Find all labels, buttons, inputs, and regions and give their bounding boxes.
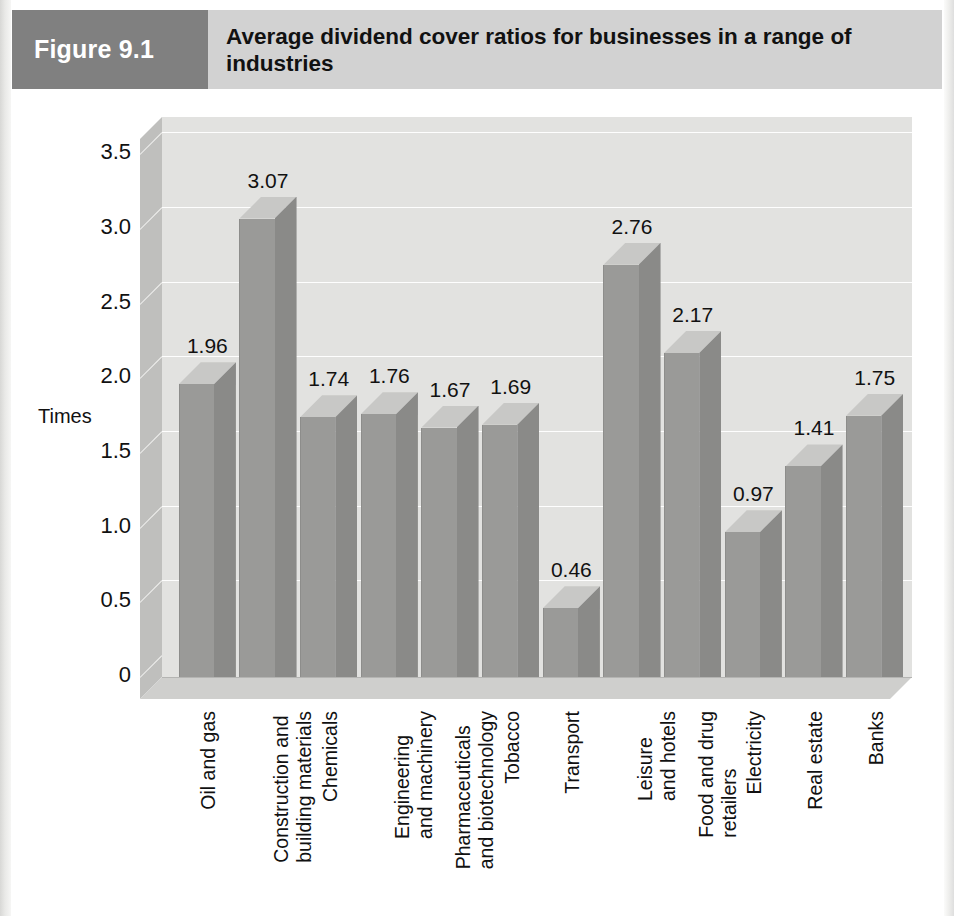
bar-4	[421, 406, 478, 677]
bar-front-face	[725, 532, 760, 677]
bar-front-face	[543, 608, 578, 677]
category-label-9: Electricity	[743, 711, 766, 794]
y-axis-tick-label: 1.5	[100, 438, 131, 464]
y-axis-tick-label: 2.0	[100, 363, 131, 389]
bar-side-face	[214, 362, 236, 677]
category-label-line: building materials	[293, 711, 316, 863]
y-axis-tick-label: 0.5	[100, 587, 131, 613]
bar-11	[846, 394, 903, 677]
bar-value-label: 1.41	[773, 416, 854, 440]
y-axis-label: Times	[38, 405, 92, 428]
bar-front-face	[179, 384, 214, 677]
bar-2	[300, 395, 357, 677]
category-label-6: Transport	[561, 711, 584, 794]
category-label-line: Transport	[561, 711, 584, 794]
y-axis-tick-label: 0	[119, 662, 131, 688]
bar-6	[543, 586, 600, 677]
bar-side-face	[881, 394, 903, 677]
category-label-line: Banks	[865, 711, 888, 765]
category-label-line: Leisure	[634, 711, 657, 801]
bar-side-face	[335, 395, 357, 677]
category-label-3: Engineeringand machinery	[391, 711, 437, 839]
bar-value-label: 3.07	[227, 169, 308, 193]
category-label-10: Real estate	[804, 711, 827, 810]
bar-front-face	[603, 265, 638, 677]
bar-front-face	[300, 417, 335, 677]
bar-front-face	[421, 428, 456, 677]
bar-1	[239, 197, 296, 677]
category-label-line: and machinery	[414, 711, 437, 839]
bar-side-face	[275, 197, 297, 677]
bar-value-label: 2.76	[591, 215, 672, 239]
category-label-line: Electricity	[743, 711, 766, 794]
category-label-line: Oil and gas	[197, 711, 220, 810]
category-label-line: retailers	[718, 711, 741, 838]
category-label-2: Chemicals	[319, 711, 342, 802]
y-axis-tick-label: 2.5	[100, 289, 131, 315]
bar-value-label: 0.46	[531, 558, 612, 582]
y-axis-tick-label: 3.0	[100, 214, 131, 240]
bar-5	[482, 403, 539, 677]
bar-value-label: 1.75	[834, 366, 915, 390]
bar-side-face	[517, 403, 539, 677]
figure-title: Average dividend cover ratios for busine…	[226, 10, 942, 89]
bar-value-label: 0.97	[713, 482, 794, 506]
category-label-line: Chemicals	[319, 711, 342, 802]
category-label-0: Oil and gas	[197, 711, 220, 810]
bar-9	[725, 510, 782, 677]
bar-front-face	[239, 219, 274, 677]
category-label-5: Tobacco	[501, 711, 524, 784]
y-axis-tick-label: 1.0	[100, 513, 131, 539]
bar-value-label: 1.69	[470, 375, 551, 399]
category-label-7: Leisureand hotels	[634, 711, 680, 801]
category-label-line: Construction and	[270, 711, 293, 863]
figure-page: Figure 9.1 Average dividend cover ratios…	[0, 0, 954, 916]
bar-front-face	[482, 425, 517, 677]
y-axis-tick-label: 3.5	[100, 139, 131, 165]
category-label-line: Tobacco	[501, 711, 524, 784]
category-label-line: Real estate	[804, 711, 827, 810]
category-label-8: Food and drugretailers	[695, 711, 741, 838]
chart-floor	[140, 677, 912, 699]
bar-side-face	[821, 444, 843, 677]
bar-side-face	[457, 406, 479, 677]
category-label-4: Pharmaceuticalsand biotechnology	[452, 711, 498, 869]
figure-header: Figure 9.1 Average dividend cover ratios…	[12, 10, 942, 89]
bar-3	[361, 392, 418, 677]
bar-0	[179, 362, 236, 677]
bar-front-face	[361, 414, 396, 677]
y-axis-ticks: 3.53.02.52.01.51.00.50	[0, 89, 131, 916]
category-label-line: Pharmaceuticals	[452, 711, 475, 869]
figure-number-badge: Figure 9.1	[12, 10, 208, 89]
bar-front-face	[664, 353, 699, 677]
chart-baseline	[162, 677, 912, 678]
category-label-11: Banks	[865, 711, 888, 765]
bar-side-face	[396, 392, 418, 677]
chart-left-wall	[140, 117, 162, 699]
bar-front-face	[846, 416, 881, 677]
category-label-1: Construction andbuilding materials	[270, 711, 316, 863]
chart-area: 1.963.071.741.761.671.690.462.762.170.97…	[0, 89, 954, 916]
category-label-line: and biotechnology	[475, 711, 498, 869]
category-label-line: Food and drug	[695, 711, 718, 838]
bar-10	[785, 444, 842, 677]
bar-side-face	[760, 510, 782, 677]
category-label-line: Engineering	[391, 711, 414, 839]
bar-value-label: 2.17	[652, 303, 733, 327]
category-label-line: and hotels	[657, 711, 680, 801]
bar-value-label: 1.96	[167, 334, 248, 358]
gridline	[162, 132, 912, 133]
